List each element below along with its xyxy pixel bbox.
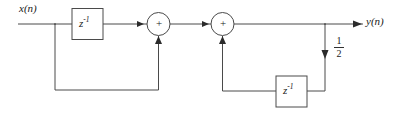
- delay-bottom-exponent: -1: [287, 82, 293, 91]
- arrowhead-gain-half-direction: [322, 50, 329, 59]
- delay-top-label: z-1: [79, 15, 90, 29]
- arrowhead-into-adder-2-left: [202, 21, 209, 27]
- arrowhead-into-adder-1-left: [137, 21, 144, 27]
- signal-flow-diagram-canvas: x(n) y(n) z-1 z-1 + + 1 2: [0, 0, 394, 113]
- adder-2-plus-label: +: [219, 17, 227, 29]
- output-signal-label: y(n): [366, 15, 384, 27]
- adder-1-plus-label: +: [155, 17, 163, 29]
- delay-top-exponent: -1: [83, 15, 89, 24]
- arrowhead-into-adder-1-bottom: [155, 36, 162, 44]
- delay-bottom-label: z-1: [283, 82, 294, 96]
- gain-half-denominator: 2: [334, 48, 344, 59]
- gain-half-numerator: 1: [334, 35, 344, 46]
- arrowhead-into-adder-2-bottom: [219, 36, 226, 44]
- arrowhead-output: [353, 21, 362, 28]
- input-signal-label: x(n): [19, 2, 37, 14]
